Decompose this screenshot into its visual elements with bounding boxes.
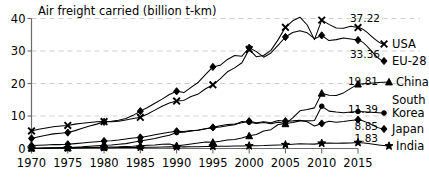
- marker-eu-28-1990: [174, 88, 180, 95]
- marker-south-korea-2010: [319, 104, 324, 109]
- y-axis-tick-label-30: 30: [11, 44, 26, 58]
- x-axis-tick-label-1975: 1975: [53, 156, 82, 170]
- marker-india-2010: [318, 139, 326, 147]
- series-value-label-south-korea: 11.39: [348, 103, 378, 115]
- x-axis-tick-label-2015: 2015: [343, 156, 372, 170]
- chart-canvas: 0102030401970197519801985199019952000200…: [0, 0, 429, 177]
- marker-india-2005: [281, 141, 289, 149]
- marker-india-1985: [136, 143, 144, 151]
- series-name-label-india: India: [396, 139, 424, 153]
- series-name-label-china: China: [396, 75, 429, 89]
- series-line-eu-28: [32, 31, 359, 139]
- chart-title: Air freight carried (billion t-km): [38, 4, 216, 18]
- air-freight-line-chart: 0102030401970197519801985199019952000200…: [0, 0, 429, 177]
- x-axis-tick-label-2010: 2010: [307, 156, 336, 170]
- marker-usa-1995: [210, 82, 217, 89]
- x-axis-tick-label-1990: 1990: [162, 156, 191, 170]
- y-axis-tick-label-20: 20: [11, 77, 26, 91]
- series-value-label-eu-28: 33.36: [350, 48, 380, 60]
- x-axis-tick-label-1995: 1995: [198, 156, 227, 170]
- x-axis-tick-label-1985: 1985: [126, 156, 155, 170]
- x-axis-tick-label-1980: 1980: [89, 156, 118, 170]
- x-axis-tick-label-1970: 1970: [17, 156, 46, 170]
- marker-eu-28-1975: [65, 129, 71, 136]
- marker-usa-2005: [282, 24, 289, 31]
- series-name-label-usa: USA: [392, 37, 416, 51]
- series-name-label-south-korea-line2: Korea: [392, 106, 425, 120]
- marker-eu-28-1970: [29, 135, 35, 142]
- y-axis-tick-label-10: 10: [11, 109, 26, 123]
- marker-usa-2010: [318, 17, 325, 24]
- marker-china-2010: [318, 90, 325, 97]
- marker-eu-28-1985: [137, 108, 143, 115]
- series-name-label-japan: Japan: [391, 122, 424, 136]
- x-axis-tick-label-2000: 2000: [235, 156, 264, 170]
- marker-japan-1995: [210, 124, 216, 131]
- y-axis-tick-label-0: 0: [18, 142, 25, 156]
- series-value-label-china: 19.81: [348, 75, 378, 87]
- y-axis-tick-label-40: 40: [11, 12, 26, 26]
- series-line-south-korea: [32, 106, 359, 148]
- series-name-label-south-korea: South: [392, 93, 425, 107]
- series-value-label-usa: 37.22: [350, 12, 380, 24]
- marker-eu-28-2010: [319, 32, 325, 39]
- marker-japan-2010: [319, 120, 325, 127]
- x-axis-tick-label-2005: 2005: [271, 156, 300, 170]
- series-name-label-eu-28: EU-28: [392, 54, 426, 68]
